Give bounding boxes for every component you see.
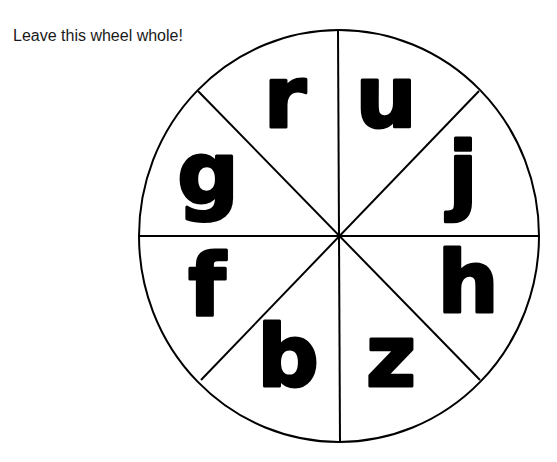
wheel-letter-f: f: [188, 235, 227, 335]
wheel-letter-h: h: [437, 232, 498, 332]
wheel-letter-g: g: [177, 123, 239, 223]
letter-wheel: rujgfhbz: [0, 0, 557, 462]
wheel-letter-r: r: [264, 47, 307, 147]
wheel-letter-u: u: [355, 47, 416, 147]
wheel-letter-j: j: [445, 123, 477, 223]
wheel-letter-z: z: [366, 306, 416, 406]
wheel-letter-b: b: [257, 306, 319, 406]
